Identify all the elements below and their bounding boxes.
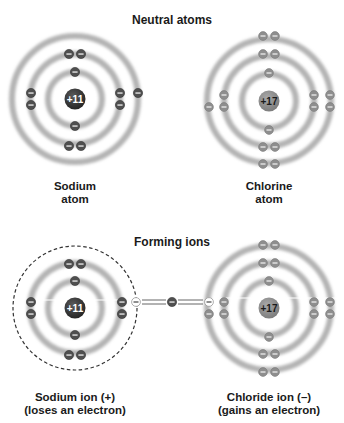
label-line: Sodium ion (+)	[5, 391, 145, 404]
label-line: (gains an electron)	[199, 404, 339, 417]
section-title-forming-ions: Forming ions	[0, 235, 344, 249]
label-line: atom	[25, 193, 125, 206]
nucleus: +17	[259, 91, 280, 112]
sodium-atom: +11	[12, 36, 143, 162]
section-title-neutral-atoms: Neutral atoms	[0, 13, 344, 27]
arriving-electron	[205, 298, 214, 307]
electron-transfer	[132, 297, 214, 306]
chloride-ion-label: Chloride ion (–) (gains an electron)	[199, 391, 339, 417]
departing-electron	[132, 298, 141, 307]
ionic-bond-diagram: +11 +17	[0, 0, 344, 423]
svg-text:+11: +11	[67, 94, 84, 105]
chlorine-atom-label: Chlorine atom	[219, 180, 319, 206]
transferring-electron	[167, 297, 176, 306]
chlorine-atom: +17	[205, 32, 335, 169]
svg-text:+11: +11	[67, 303, 84, 314]
nucleus: +11	[65, 298, 86, 319]
svg-text:+17: +17	[261, 96, 278, 107]
nucleus: +17	[259, 298, 280, 319]
sodium-ion-label: Sodium ion (+) (loses an electron)	[5, 391, 145, 417]
label-line: Chlorine	[219, 180, 319, 193]
chloride-ion: +17	[205, 241, 340, 377]
label-line: Sodium	[25, 180, 125, 193]
sodium-ion: +11	[13, 246, 137, 370]
label-line: Chloride ion (–)	[199, 391, 339, 404]
svg-text:+17: +17	[261, 303, 278, 314]
label-line: atom	[219, 193, 319, 206]
label-line: (loses an electron)	[5, 404, 145, 417]
sodium-atom-label: Sodium atom	[25, 180, 125, 206]
nucleus: +11	[65, 89, 86, 110]
